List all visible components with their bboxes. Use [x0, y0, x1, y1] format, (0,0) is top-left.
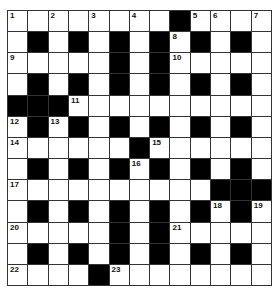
letter-cell[interactable] — [252, 117, 271, 137]
letter-cell[interactable]: 5 — [191, 11, 210, 31]
letter-cell[interactable] — [49, 53, 68, 73]
letter-cell[interactable] — [211, 32, 230, 52]
letter-cell[interactable] — [252, 32, 271, 52]
letter-cell[interactable] — [69, 265, 88, 285]
letter-cell[interactable] — [150, 265, 169, 285]
letter-cell[interactable] — [89, 159, 108, 179]
letter-cell[interactable] — [49, 223, 68, 243]
letter-cell[interactable] — [252, 159, 271, 179]
letter-cell[interactable] — [28, 53, 47, 73]
letter-cell[interactable] — [130, 244, 149, 264]
letter-cell[interactable] — [89, 74, 108, 94]
letter-cell[interactable] — [252, 74, 271, 94]
letter-cell[interactable]: 10 — [170, 53, 189, 73]
letter-cell[interactable] — [110, 138, 129, 158]
letter-cell[interactable]: 15 — [150, 138, 169, 158]
letter-cell[interactable]: 16 — [130, 159, 149, 179]
letter-cell[interactable] — [28, 11, 47, 31]
letter-cell[interactable] — [130, 74, 149, 94]
letter-cell[interactable] — [211, 265, 230, 285]
letter-cell[interactable] — [211, 117, 230, 137]
letter-cell[interactable] — [49, 180, 68, 200]
letter-cell[interactable] — [150, 96, 169, 116]
letter-cell[interactable] — [130, 117, 149, 137]
letter-cell[interactable] — [69, 53, 88, 73]
letter-cell[interactable] — [89, 138, 108, 158]
letter-cell[interactable] — [191, 96, 210, 116]
letter-cell[interactable] — [252, 244, 271, 264]
letter-cell[interactable]: 3 — [89, 11, 108, 31]
letter-cell[interactable] — [170, 265, 189, 285]
letter-cell[interactable]: 4 — [130, 11, 149, 31]
letter-cell[interactable]: 8 — [170, 32, 189, 52]
letter-cell[interactable] — [211, 53, 230, 73]
letter-cell[interactable]: 9 — [8, 53, 27, 73]
letter-cell[interactable] — [89, 223, 108, 243]
letter-cell[interactable] — [89, 244, 108, 264]
letter-cell[interactable] — [211, 96, 230, 116]
letter-cell[interactable]: 18 — [211, 201, 230, 221]
letter-cell[interactable]: 12 — [8, 117, 27, 137]
letter-cell[interactable] — [110, 11, 129, 31]
letter-cell[interactable] — [211, 244, 230, 264]
letter-cell[interactable] — [49, 201, 68, 221]
letter-cell[interactable] — [49, 265, 68, 285]
letter-cell[interactable] — [252, 138, 271, 158]
letter-cell[interactable] — [211, 74, 230, 94]
letter-cell[interactable] — [211, 223, 230, 243]
letter-cell[interactable] — [69, 180, 88, 200]
letter-cell[interactable] — [130, 96, 149, 116]
letter-cell[interactable] — [8, 159, 27, 179]
letter-cell[interactable] — [89, 180, 108, 200]
letter-cell[interactable] — [170, 201, 189, 221]
letter-cell[interactable]: 23 — [110, 265, 129, 285]
letter-cell[interactable]: 21 — [170, 223, 189, 243]
letter-cell[interactable] — [130, 201, 149, 221]
letter-cell[interactable] — [8, 244, 27, 264]
letter-cell[interactable] — [211, 159, 230, 179]
letter-cell[interactable]: 7 — [252, 11, 271, 31]
letter-cell[interactable] — [252, 223, 271, 243]
letter-cell[interactable]: 2 — [49, 11, 68, 31]
letter-cell[interactable] — [252, 96, 271, 116]
letter-cell[interactable] — [170, 117, 189, 137]
letter-cell[interactable] — [231, 96, 250, 116]
letter-cell[interactable] — [49, 138, 68, 158]
letter-cell[interactable] — [8, 32, 27, 52]
letter-cell[interactable] — [150, 11, 169, 31]
letter-cell[interactable] — [170, 96, 189, 116]
letter-cell[interactable] — [89, 96, 108, 116]
letter-cell[interactable] — [110, 180, 129, 200]
letter-cell[interactable] — [130, 223, 149, 243]
letter-cell[interactable] — [69, 223, 88, 243]
letter-cell[interactable] — [191, 138, 210, 158]
letter-cell[interactable] — [8, 201, 27, 221]
letter-cell[interactable] — [130, 180, 149, 200]
letter-cell[interactable] — [89, 117, 108, 137]
letter-cell[interactable] — [170, 159, 189, 179]
letter-cell[interactable]: 13 — [49, 117, 68, 137]
letter-cell[interactable] — [130, 32, 149, 52]
letter-cell[interactable]: 19 — [252, 201, 271, 221]
letter-cell[interactable] — [28, 138, 47, 158]
letter-cell[interactable]: 22 — [8, 265, 27, 285]
letter-cell[interactable] — [8, 74, 27, 94]
letter-cell[interactable] — [110, 96, 129, 116]
letter-cell[interactable] — [170, 74, 189, 94]
letter-cell[interactable] — [89, 32, 108, 52]
letter-cell[interactable] — [89, 201, 108, 221]
letter-cell[interactable]: 6 — [211, 11, 230, 31]
letter-cell[interactable]: 14 — [8, 138, 27, 158]
letter-cell[interactable] — [231, 223, 250, 243]
letter-cell[interactable] — [231, 138, 250, 158]
letter-cell[interactable] — [191, 265, 210, 285]
letter-cell[interactable] — [252, 53, 271, 73]
letter-cell[interactable] — [89, 53, 108, 73]
letter-cell[interactable]: 1 — [8, 11, 27, 31]
letter-cell[interactable] — [252, 265, 271, 285]
letter-cell[interactable] — [49, 244, 68, 264]
letter-cell[interactable] — [130, 53, 149, 73]
letter-cell[interactable]: 17 — [8, 180, 27, 200]
letter-cell[interactable]: 11 — [69, 96, 88, 116]
letter-cell[interactable] — [191, 53, 210, 73]
